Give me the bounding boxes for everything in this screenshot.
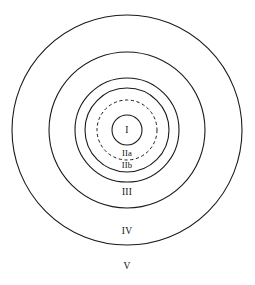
zone-label-iia: IIa (122, 148, 132, 158)
zone-diagram-canvas: I IIa IIb III IV V (0, 0, 255, 285)
zone-label-iib: IIb (122, 160, 133, 170)
zone-label-iv: IV (122, 226, 132, 236)
zone-label-i: I (125, 125, 128, 135)
zone-label-iii: III (122, 187, 132, 197)
zone-label-v: V (123, 261, 130, 271)
concentric-zone-diagram: I IIa IIb III IV V (0, 0, 255, 285)
